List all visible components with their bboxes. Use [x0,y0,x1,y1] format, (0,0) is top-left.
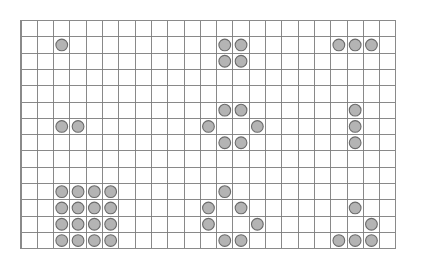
token-group-row-triple-top-right[interactable] [333,39,377,51]
token-circle[interactable] [349,121,361,133]
token-circle[interactable] [72,121,84,133]
token-circle[interactable] [349,202,361,214]
token-circle[interactable] [105,186,117,198]
token-circle[interactable] [203,121,215,133]
token-group-single-token-top-left[interactable] [56,39,68,51]
token-circle[interactable] [219,104,231,116]
board-canvas [0,0,425,264]
token-circle[interactable] [219,186,231,198]
token-circle[interactable] [366,218,378,230]
token-circle[interactable] [56,39,68,51]
grid-lines [21,21,396,249]
token-circle[interactable] [88,218,100,230]
token-circle[interactable] [219,235,231,247]
token-circle[interactable] [251,121,263,133]
token-circle[interactable] [56,218,68,230]
token-circle[interactable] [333,39,345,51]
token-circle[interactable] [56,121,68,133]
token-circle[interactable] [235,235,247,247]
token-circle[interactable] [349,39,361,51]
token-circle[interactable] [235,39,247,51]
token-circle[interactable] [366,39,378,51]
token-group-column-triple-middle-right[interactable] [349,104,361,148]
token-circle[interactable] [72,202,84,214]
token-group-scatter-bottom-right[interactable] [333,202,377,246]
token-circle[interactable] [105,202,117,214]
token-circle[interactable] [56,235,68,247]
token-circle[interactable] [219,137,231,149]
token-circle[interactable] [219,55,231,67]
token-circle[interactable] [72,235,84,247]
token-circle[interactable] [349,235,361,247]
token-circle[interactable] [349,137,361,149]
token-circle[interactable] [333,235,345,247]
token-circle[interactable] [251,218,263,230]
token-circle[interactable] [105,218,117,230]
token-circle[interactable] [366,235,378,247]
token-circle[interactable] [88,235,100,247]
token-circle[interactable] [72,186,84,198]
token-circle[interactable] [235,104,247,116]
token-circle[interactable] [203,218,215,230]
token-circle[interactable] [219,39,231,51]
token-circle[interactable] [56,186,68,198]
token-circle[interactable] [203,202,215,214]
token-circle[interactable] [88,186,100,198]
token-circle[interactable] [105,235,117,247]
token-circle[interactable] [88,202,100,214]
token-circle[interactable] [235,202,247,214]
token-circle[interactable] [349,104,361,116]
token-circle[interactable] [72,218,84,230]
token-circle[interactable] [235,137,247,149]
token-circle[interactable] [56,202,68,214]
grid-and-tokens-surface[interactable] [0,0,425,264]
token-circle[interactable] [235,55,247,67]
